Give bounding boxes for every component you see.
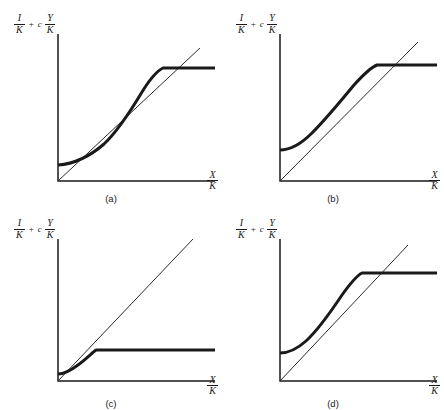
plot-area-a: [0, 0, 222, 205]
denominator: K: [207, 385, 218, 396]
investment-curve-a: [58, 68, 215, 165]
panel-caption-b: (b): [222, 193, 444, 204]
plot-area-d: [222, 205, 444, 410]
x-axis-label-a: X K: [207, 170, 218, 191]
numerator: X: [430, 170, 440, 180]
panel-caption-d: (d): [222, 398, 444, 409]
fraction-x-over-k-c: X K: [207, 375, 218, 396]
fraction-x-over-k-d: X K: [429, 375, 440, 396]
plot-area-c: [0, 205, 222, 410]
denominator: K: [429, 180, 440, 191]
x-axis-label-b: X K: [429, 170, 440, 191]
panel-caption-c: (c): [0, 398, 222, 409]
diagonal-line-c: [58, 239, 193, 381]
plot-area-b: [222, 0, 444, 205]
panel-b: I K + c Y K X K (b): [222, 0, 444, 205]
panel-c: I K + c Y K X K (c): [0, 205, 222, 410]
denominator: K: [429, 385, 440, 396]
panel-caption-a: (a): [0, 193, 222, 204]
axes-lines-d: [280, 239, 437, 381]
diagonal-line-d: [280, 245, 408, 381]
fraction-x-over-k-a: X K: [207, 170, 218, 191]
investment-curve-c: [58, 350, 215, 374]
investment-curve-d: [280, 273, 437, 353]
panel-d: I K + c Y K X K (d): [222, 205, 444, 410]
diagonal-line-b: [280, 42, 418, 181]
numerator: X: [208, 375, 218, 385]
axes-lines-b: [280, 34, 437, 181]
axes-lines-c: [58, 239, 215, 381]
x-axis-label-d: X K: [429, 375, 440, 396]
figure-four-panel-investment-diagram: I K + c Y K X K (a) I K: [0, 0, 444, 410]
investment-curve-b: [280, 65, 437, 150]
panel-a: I K + c Y K X K (a): [0, 0, 222, 205]
fraction-x-over-k-b: X K: [429, 170, 440, 191]
x-axis-label-c: X K: [207, 375, 218, 396]
denominator: K: [207, 180, 218, 191]
numerator: X: [208, 170, 218, 180]
numerator: X: [430, 375, 440, 385]
